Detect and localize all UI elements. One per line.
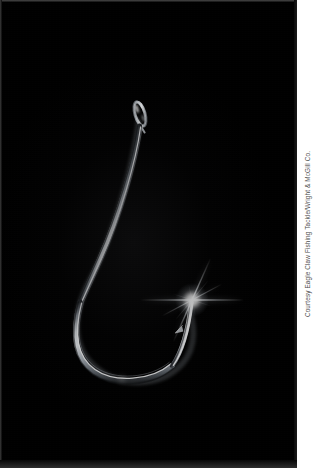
hook-shank <box>78 126 142 304</box>
hook-illustration <box>2 2 295 464</box>
photo-credit: Courtesy Eagle Claw Fishing Tackle/Wrigh… <box>304 151 311 317</box>
photo-canvas <box>2 2 295 464</box>
caption-margin: Courtesy Eagle Claw Fishing Tackle/Wrigh… <box>297 0 317 468</box>
hook-bend <box>74 302 174 384</box>
photo-frame <box>0 0 297 468</box>
page-root: Courtesy Eagle Claw Fishing Tackle/Wrigh… <box>0 0 317 468</box>
bend-glint <box>119 376 125 382</box>
